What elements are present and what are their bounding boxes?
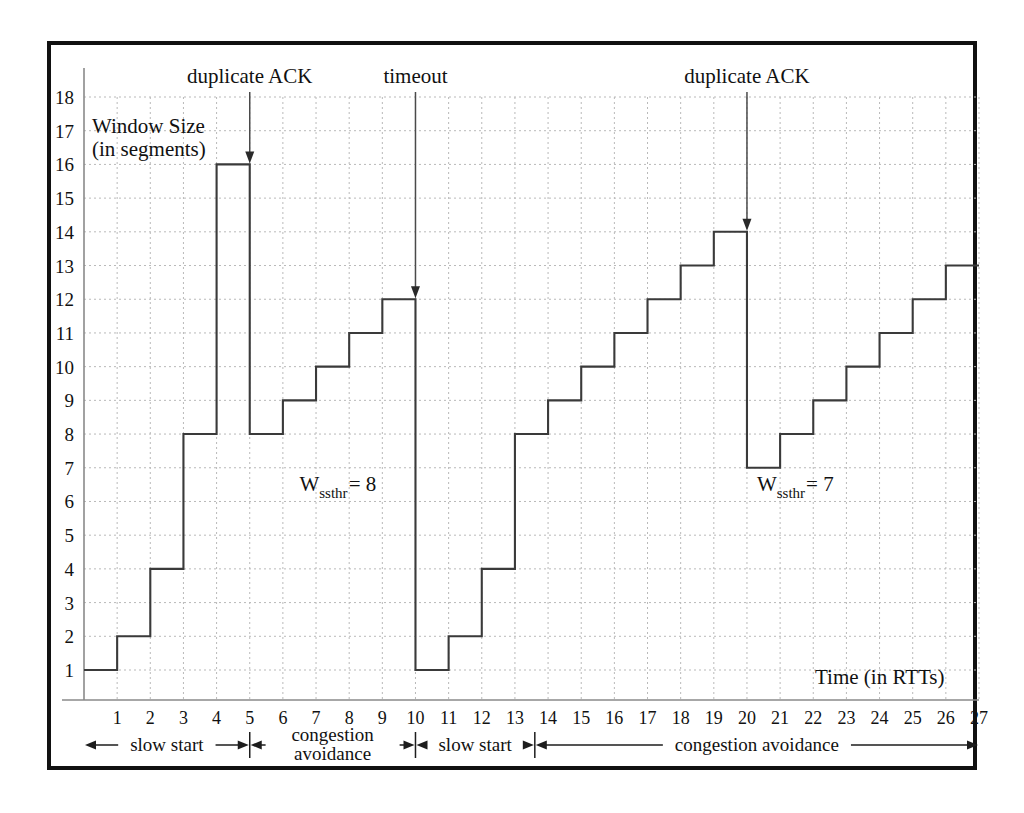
y-tick-label: 2	[65, 626, 75, 647]
event-annotations: duplicate ACKtimeoutduplicate ACK	[187, 64, 810, 298]
x-tick-label: 17	[639, 708, 657, 728]
axes	[62, 68, 979, 700]
x-tick-label: 20	[738, 708, 756, 728]
x-tick-label: 11	[440, 708, 457, 728]
threshold-symbol: W	[757, 472, 777, 496]
x-tick-label: 16	[605, 708, 623, 728]
threshold-label-wssthr-1: Wssthr= 8	[299, 472, 376, 501]
phase-arrowhead-right-phase-slow-start-1	[238, 741, 249, 750]
x-tick-label: 14	[539, 708, 557, 728]
x-tick-label: 23	[837, 708, 855, 728]
phase-arrowhead-left-phase-congestion-avoidance-1	[251, 741, 262, 750]
x-axis-ticks: 1234567891011121314151617181920212223242…	[113, 708, 988, 728]
y-axis-title-line1: Window Size	[92, 114, 205, 138]
x-tick-label: 3	[179, 708, 188, 728]
x-axis-title: Time (in RTTs)	[815, 665, 945, 689]
x-tick-label: 13	[506, 708, 524, 728]
y-tick-label: 14	[55, 222, 75, 243]
congestion-window-curve	[84, 164, 979, 670]
congestion-window-chart: 1234567891011121314151617181234567891011…	[0, 0, 1024, 813]
gridlines	[84, 97, 979, 700]
x-tick-label: 12	[473, 708, 491, 728]
x-tick-label: 19	[705, 708, 723, 728]
threshold-labels: Wssthr= 8Wssthr= 7	[299, 472, 833, 501]
phase-label-phase-slow-start-1: slow start	[130, 734, 204, 755]
phase-label-phase-congestion-avoidance-1-line2: avoidance	[294, 743, 371, 764]
y-tick-label: 10	[55, 357, 74, 378]
y-tick-label: 7	[65, 458, 75, 479]
phase-label-phase-slow-start-2: slow start	[438, 734, 512, 755]
phase-arrowhead-left-phase-slow-start-2	[416, 741, 427, 750]
y-tick-label: 3	[65, 593, 75, 614]
y-axis-ticks: 123456789101112131415161718	[55, 87, 75, 681]
phase-label-phase-congestion-avoidance-2: congestion avoidance	[675, 734, 839, 755]
annotation-label-duplicate-ack-1: duplicate ACK	[187, 64, 312, 88]
y-tick-label: 17	[55, 121, 74, 142]
x-tick-label: 10	[406, 708, 424, 728]
phase-annotations: slow startcongestionavoidanceslow startc…	[85, 724, 978, 764]
phase-arrowhead-right-phase-slow-start-2	[523, 741, 534, 750]
y-tick-label: 15	[55, 188, 74, 209]
x-tick-label: 1	[113, 708, 122, 728]
x-tick-label: 26	[937, 708, 955, 728]
threshold-value: = 7	[806, 472, 834, 496]
x-tick-label: 6	[278, 708, 287, 728]
y-tick-label: 9	[65, 390, 75, 411]
x-tick-label: 18	[672, 708, 690, 728]
phase-arrowhead-left-phase-slow-start-1	[85, 741, 96, 750]
annotation-arrowhead-timeout	[411, 286, 420, 298]
y-tick-label: 12	[55, 289, 74, 310]
x-tick-label: 21	[771, 708, 789, 728]
phase-arrowhead-left-phase-congestion-avoidance-2	[536, 741, 547, 750]
threshold-subscript: ssthr	[319, 485, 347, 501]
figure-root: 1234567891011121314151617181234567891011…	[0, 0, 1024, 813]
y-tick-label: 18	[55, 87, 74, 108]
annotation-arrowhead-duplicate-ack-2	[742, 219, 751, 231]
y-tick-label: 6	[65, 491, 75, 512]
annotation-label-timeout: timeout	[383, 64, 447, 88]
y-tick-label: 5	[65, 525, 75, 546]
phase-label-phase-congestion-avoidance-1: congestion	[291, 724, 374, 745]
x-tick-label: 5	[245, 708, 254, 728]
annotation-label-duplicate-ack-2: duplicate ACK	[684, 64, 809, 88]
x-tick-label: 25	[904, 708, 922, 728]
threshold-value: = 8	[349, 472, 377, 496]
x-tick-label: 24	[871, 708, 889, 728]
phase-arrowhead-right-phase-congestion-avoidance-2	[967, 741, 978, 750]
y-tick-label: 11	[56, 323, 74, 344]
y-tick-label: 8	[65, 424, 75, 445]
threshold-symbol: W	[299, 472, 319, 496]
x-tick-label: 9	[378, 708, 387, 728]
x-tick-label: 4	[212, 708, 221, 728]
threshold-subscript: ssthr	[777, 485, 805, 501]
y-tick-label: 16	[55, 154, 74, 175]
y-tick-label: 13	[55, 256, 74, 277]
y-axis-title-line2: (in segments)	[92, 137, 206, 161]
annotation-arrowhead-duplicate-ack-1	[245, 151, 254, 163]
x-tick-label: 27	[970, 708, 988, 728]
threshold-label-wssthr-2: Wssthr= 7	[757, 472, 834, 501]
phase-arrowhead-right-phase-congestion-avoidance-1	[403, 741, 414, 750]
y-tick-label: 1	[65, 660, 75, 681]
x-tick-label: 2	[146, 708, 155, 728]
x-tick-label: 15	[572, 708, 590, 728]
x-tick-label: 22	[804, 708, 822, 728]
y-tick-label: 4	[65, 559, 75, 580]
